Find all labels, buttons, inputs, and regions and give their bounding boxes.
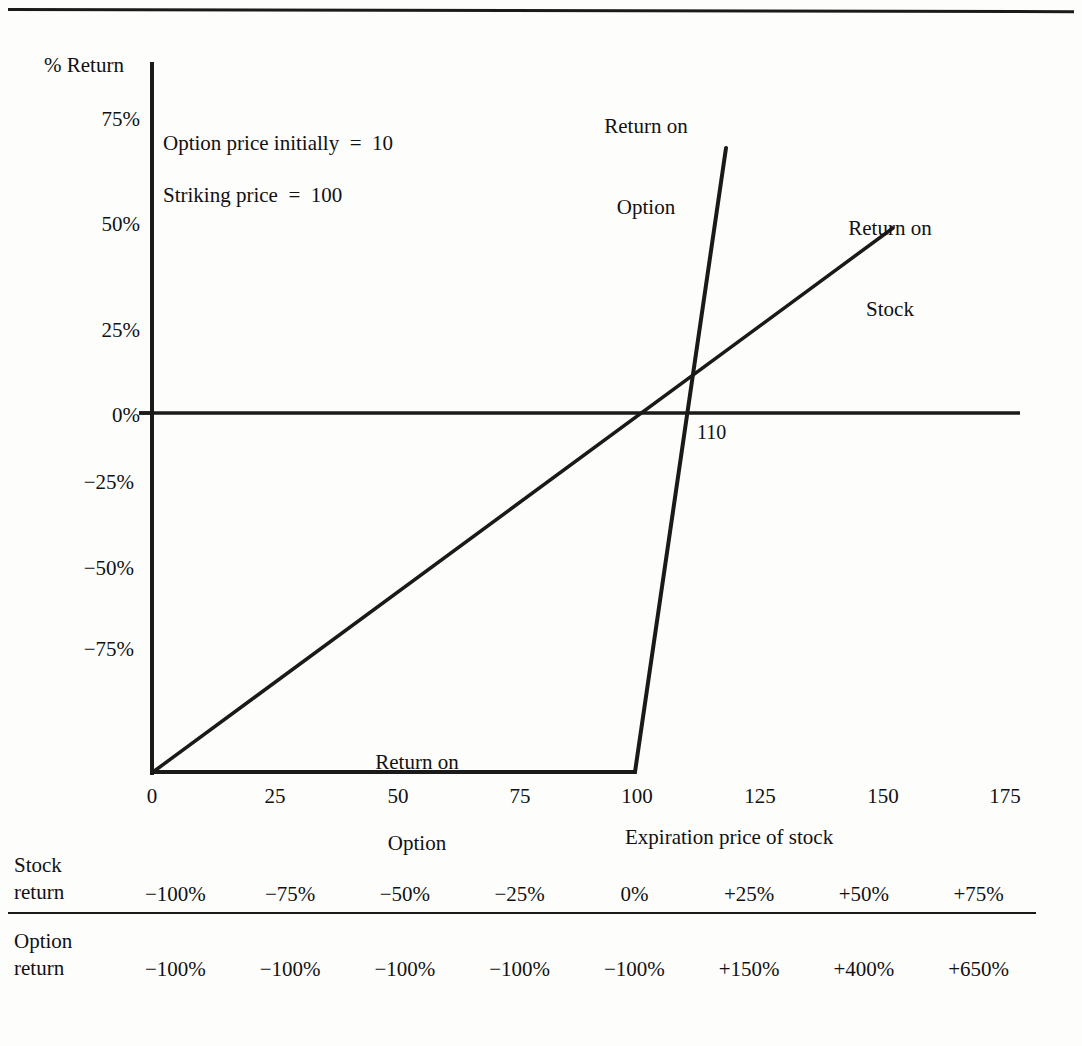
option-return-cell-4: −100% [577,928,692,983]
stock-return-cell-3: −25% [462,852,577,913]
label-return-on-stock: Return on Stock [810,160,970,378]
stock-return-cell-0: −100% [118,852,233,913]
stock-return-line [153,228,893,772]
label-return-on-stock-line1: Return on [810,215,970,242]
option-return-cell-5: +150% [692,928,807,983]
label-return-on-stock-line2: Stock [810,296,970,323]
x-tick-label-100: 100 [607,783,667,810]
row-label-option-return: Option return [8,928,118,983]
y-tick-label-25: 25% [54,317,140,344]
row-label-stock-return: Stock return [8,852,118,913]
chart-plot-area [0,0,1082,840]
option-return-cell-0: −100% [118,928,233,983]
y-tick-label-neg25: −25% [48,469,134,496]
y-axis-title: % Return [44,52,124,79]
stock-return-cell-1: −75% [233,852,348,913]
stock-return-cell-4: 0% [577,852,692,913]
label-return-on-option-top: Return on Option [566,58,726,276]
x-tick-label-175: 175 [975,783,1035,810]
table-row-stock-return: Stock return −100% −75% −50% −25% 0% +25… [8,852,1036,913]
y-tick-label-0: 0% [54,402,140,429]
y-tick-label-75: 75% [54,106,140,133]
label-return-on-option-top-line2: Option [566,194,726,221]
option-return-cell-3: −100% [462,928,577,983]
label-return-on-option-top-line1: Return on [566,113,726,140]
returns-table-block: Stock return −100% −75% −50% −25% 0% +25… [0,852,1082,982]
returns-table: Stock return −100% −75% −50% −25% 0% +25… [8,852,1036,982]
option-breakeven-label: 110 [697,420,726,446]
y-tick-label-neg50: −50% [48,555,134,582]
x-tick-label-150: 150 [853,783,913,810]
table-row-option-return: Option return −100% −100% −100% −100% −1… [8,928,1036,983]
x-tick-label-125: 125 [730,783,790,810]
y-tick-label-50: 50% [54,211,140,238]
stock-return-cell-6: +50% [807,852,922,913]
option-return-cell-6: +400% [807,928,922,983]
x-tick-label-0: 0 [122,783,182,810]
note-striking-price: Striking price = 100 [163,182,342,209]
option-return-cell-1: −100% [233,928,348,983]
table-spacer-cell [8,913,1036,928]
y-tick-label-neg75: −75% [48,636,134,663]
x-axis-title: Expiration price of stock [625,824,833,851]
label-return-on-option-bottom-line1: Return on [337,749,497,776]
stock-return-cell-7: +75% [921,852,1036,913]
x-tick-label-75: 75 [490,783,550,810]
table-row-spacer [8,913,1036,928]
x-tick-label-25: 25 [245,783,305,810]
stock-return-cell-2: −50% [348,852,463,913]
figure-page: % Return 75% 50% 25% 0% −25% −50% −75% 0… [0,0,1082,1046]
option-return-cell-2: −100% [348,928,463,983]
note-option-price: Option price initially = 10 [163,130,393,157]
option-return-cell-7: +650% [921,928,1036,983]
stock-return-cell-5: +25% [692,852,807,913]
chart-figure: % Return 75% 50% 25% 0% −25% −50% −75% 0… [0,0,1082,840]
